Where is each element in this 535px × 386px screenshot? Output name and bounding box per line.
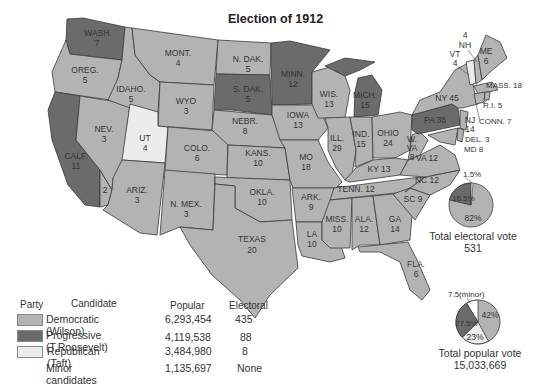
svg-text:IOWA: IOWA (287, 110, 310, 120)
svg-text:42%: 42% (481, 310, 498, 320)
electoral-democratic: 435 (235, 313, 253, 325)
svg-text:N. MEX.: N. MEX. (170, 199, 202, 209)
svg-text:11: 11 (72, 161, 81, 171)
svg-text:MONT.: MONT. (165, 48, 191, 58)
svg-text:MASS. 18: MASS. 18 (486, 81, 523, 90)
popular-vote-caption: Total popular vote 15,033,669 (430, 347, 530, 371)
popular-democratic: 6,293,454 (165, 313, 212, 325)
svg-text:12: 12 (359, 224, 369, 234)
svg-text:CONN. 7: CONN. 7 (479, 117, 512, 126)
svg-text:4: 4 (143, 143, 148, 153)
svg-text:KY 13: KY 13 (367, 164, 390, 174)
legend-header-popular: Popular (170, 300, 204, 311)
svg-text:10: 10 (257, 197, 267, 207)
svg-text:ILL.: ILL. (330, 133, 344, 143)
swatch-progressive (17, 330, 43, 342)
svg-text:MICH.: MICH. (353, 90, 377, 100)
state-fla (358, 242, 430, 300)
svg-text:GA: GA (389, 214, 402, 224)
svg-text:10: 10 (253, 158, 263, 168)
svg-text:3: 3 (184, 106, 189, 116)
svg-text:5: 5 (83, 75, 88, 85)
svg-text:TENN. 12: TENN. 12 (337, 184, 375, 194)
candidate-minor: Minor candidates (46, 362, 97, 386)
svg-text:FLA.: FLA. (407, 259, 425, 269)
svg-text:5: 5 (129, 94, 134, 104)
svg-text:16.5%: 16.5% (452, 194, 475, 203)
svg-text:13: 13 (324, 99, 334, 109)
svg-text:MINN.: MINN. (281, 69, 305, 79)
svg-text:MD 8: MD 8 (464, 145, 484, 154)
svg-text:13: 13 (293, 120, 303, 130)
legend-header-electoral: Electoral (229, 300, 268, 311)
popular-minor: 1,135,697 (165, 362, 212, 374)
state-ri (484, 92, 490, 100)
svg-text:S. DAK.: S. DAK. (233, 84, 263, 94)
legend-header-candidate: Candidate (71, 298, 117, 309)
electoral-progressive: 88 (240, 331, 252, 343)
legend-header-party: Party (20, 299, 43, 310)
svg-text:IDAHO.: IDAHO. (116, 84, 145, 94)
electoral-vote-caption: Total electoral vote 531 (428, 230, 518, 254)
svg-text:SC 9: SC 9 (404, 194, 423, 204)
svg-text:10: 10 (332, 224, 342, 234)
svg-text:R.I. 5: R.I. 5 (483, 101, 503, 110)
svg-text:DEL. 3: DEL. 3 (465, 135, 490, 144)
svg-text:OKLA.: OKLA. (249, 187, 274, 197)
svg-text:KANS.: KANS. (245, 148, 271, 158)
svg-text:1.5%: 1.5% (463, 170, 481, 179)
svg-text:PA 38: PA 38 (424, 115, 446, 125)
svg-text:2: 2 (103, 185, 108, 195)
svg-text:4: 4 (453, 58, 458, 68)
svg-text:ME: ME (480, 46, 493, 56)
popular-vote-pie: 7.5(minor) 27.5% 23% 42% (448, 290, 500, 344)
state-me (478, 35, 507, 80)
svg-text:6: 6 (484, 56, 489, 66)
svg-text:WIS.: WIS. (320, 89, 338, 99)
svg-text:18: 18 (301, 162, 311, 172)
svg-text:14: 14 (390, 224, 400, 234)
svg-text:MISS.: MISS. (325, 214, 348, 224)
svg-text:OHIO: OHIO (377, 128, 399, 138)
svg-text:3: 3 (135, 195, 140, 205)
svg-text:6: 6 (195, 153, 200, 163)
svg-text:6: 6 (414, 269, 419, 279)
svg-text:5: 5 (246, 64, 251, 74)
svg-text:9: 9 (309, 202, 314, 212)
svg-text:3: 3 (102, 134, 107, 144)
svg-text:NEBR.: NEBR. (232, 116, 258, 126)
svg-text:15: 15 (360, 100, 370, 110)
svg-text:TEXAS: TEXAS (238, 234, 266, 244)
swatch-republican (17, 346, 43, 358)
svg-text:12: 12 (288, 79, 298, 89)
svg-text:NH: NH (459, 40, 471, 50)
electoral-republican: 8 (242, 345, 248, 357)
svg-text:14: 14 (465, 124, 475, 134)
svg-text:IND.: IND. (353, 129, 370, 139)
svg-text:UT: UT (139, 133, 150, 143)
svg-text:ARIZ.: ARIZ. (126, 185, 148, 195)
svg-text:WASH.: WASH. (84, 28, 112, 38)
swatch-democratic (17, 314, 43, 326)
svg-text:4: 4 (176, 58, 181, 68)
popular-progressive: 4,119,538 (165, 331, 211, 343)
svg-text:COLO.: COLO. (184, 143, 210, 153)
svg-text:29: 29 (332, 143, 342, 153)
svg-text:NY 45: NY 45 (435, 93, 459, 103)
svg-text:20: 20 (247, 245, 257, 255)
electoral-vote-pie: 1.5% 16.5% 82% (449, 170, 493, 227)
svg-text:8: 8 (243, 126, 248, 136)
electoral-minor: None (237, 362, 262, 374)
svg-text:NEV.: NEV. (94, 124, 113, 134)
svg-text:15: 15 (356, 139, 366, 149)
svg-text:23%: 23% (466, 332, 483, 342)
svg-text:CALF.: CALF. (64, 151, 87, 161)
svg-text:5: 5 (246, 94, 251, 104)
svg-text:8: 8 (410, 152, 415, 162)
svg-text:OREG.: OREG. (71, 65, 98, 75)
svg-text:27.5%: 27.5% (455, 319, 478, 328)
svg-text:24: 24 (383, 138, 393, 148)
state-del (457, 128, 464, 142)
svg-text:10: 10 (307, 239, 317, 249)
svg-text:WYO: WYO (176, 96, 197, 106)
